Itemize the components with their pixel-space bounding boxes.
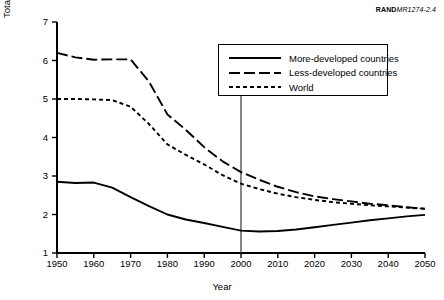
x-tick-label: 1990 xyxy=(184,258,224,269)
legend-item[interactable]: Less-developed countries xyxy=(227,66,397,80)
x-tick-label: 2040 xyxy=(368,258,408,269)
x-tick-label: 2000 xyxy=(221,258,261,269)
legend-item-label: Less-developed countries xyxy=(289,67,397,78)
fertility-rate-chart: RANDMR1274-2.4 Total fertility rate (liv… xyxy=(0,0,444,300)
legend-item[interactable]: More-developed countries xyxy=(227,51,399,65)
y-tick-label: 5 xyxy=(32,94,48,103)
legend-line-sample-short-dash xyxy=(227,81,285,93)
chart-legend: More-developed countriesLess-developed c… xyxy=(218,44,388,96)
x-tick-label: 2010 xyxy=(258,258,298,269)
legend-item-label: World xyxy=(289,82,314,93)
x-tick-label: 2050 xyxy=(405,258,444,269)
y-tick-label: 7 xyxy=(32,17,48,26)
legend-item-label: More-developed countries xyxy=(289,53,399,64)
x-tick-label: 2020 xyxy=(295,258,335,269)
y-tick-label: 6 xyxy=(32,56,48,65)
y-tick-label: 2 xyxy=(32,210,48,219)
x-tick-label: 2030 xyxy=(331,258,371,269)
x-tick-label: 1980 xyxy=(147,258,187,269)
y-tick-label: 4 xyxy=(32,133,48,142)
legend-line-sample-long-dash xyxy=(227,67,285,79)
y-tick-label: 3 xyxy=(32,171,48,180)
legend-item[interactable]: World xyxy=(227,80,314,94)
x-tick-label: 1950 xyxy=(37,258,77,269)
y-tick-label: 1 xyxy=(32,248,48,257)
legend-line-sample-solid xyxy=(227,52,285,64)
x-tick-label: 1960 xyxy=(74,258,114,269)
x-tick-label: 1970 xyxy=(111,258,151,269)
